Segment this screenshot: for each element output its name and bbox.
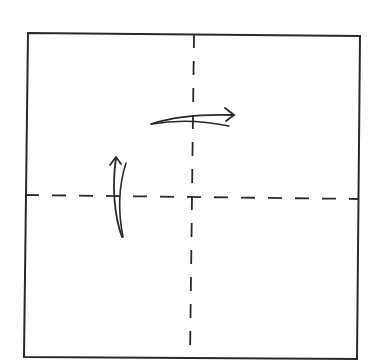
origami-diagram: Square paper with center crease lines an… <box>0 0 375 364</box>
diagram-canvas <box>0 0 375 364</box>
